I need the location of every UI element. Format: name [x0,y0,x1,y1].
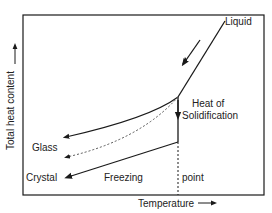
point-label: point [182,172,204,183]
heat-of-label: Heat of [192,98,224,109]
x-axis-label: Temperature [138,198,194,209]
liquid-label: Liquid [225,16,252,27]
liquid-arrow-line [184,40,200,63]
y-axis-label: Total heat content [5,71,16,150]
solidification-label: Solidification [182,110,238,121]
plot-frame [23,15,264,195]
glass-dotted-curve [67,97,178,157]
freezing-label: Freezing [104,172,143,183]
glass-label: Glass [32,142,58,153]
glass-line [66,97,178,137]
crystal-label: Crystal [26,172,57,183]
liquid-arrow-icon [182,57,187,65]
